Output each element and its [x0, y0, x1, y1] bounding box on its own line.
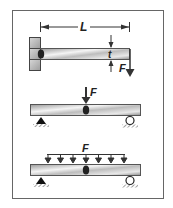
ground-hatch	[122, 125, 138, 128]
force-label: F	[119, 62, 126, 74]
ground-hatch	[33, 124, 49, 127]
cantilever-beam	[41, 49, 130, 60]
fixed-joint-icon	[38, 50, 44, 59]
ground-hatch	[33, 184, 49, 187]
length-label: L	[80, 20, 87, 34]
wall-block-icon	[30, 38, 41, 49]
wall-block-icon	[30, 60, 41, 71]
force-label: F	[82, 142, 89, 154]
roller-support-icon	[126, 117, 134, 125]
ground-hatch	[122, 185, 138, 188]
beam-load-diagram: L t F F F	[0, 0, 173, 208]
roller-support-icon	[126, 177, 134, 185]
midpoint-joint-icon	[83, 166, 89, 175]
midpoint-joint-icon	[83, 106, 89, 115]
force-label: F	[90, 86, 97, 98]
